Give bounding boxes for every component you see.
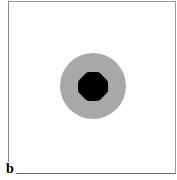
panel-label: b — [6, 162, 16, 176]
